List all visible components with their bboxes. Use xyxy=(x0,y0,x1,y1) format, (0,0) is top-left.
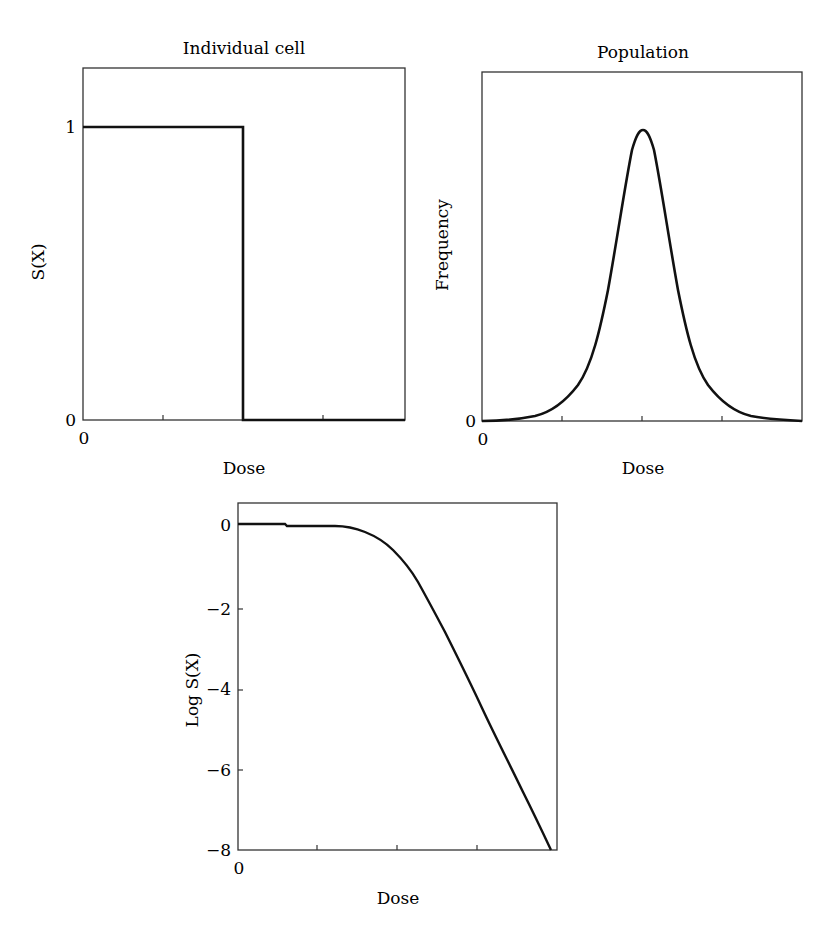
x-axis-label: Dose xyxy=(223,458,266,478)
y-ticks xyxy=(238,609,243,770)
x-tick-origin: 0 xyxy=(79,428,90,448)
panel-title: Individual cell xyxy=(183,38,305,58)
y-axis-label: Log S(X) xyxy=(182,653,202,728)
x-ticks xyxy=(562,416,722,421)
step-function-line xyxy=(83,127,405,420)
x-axis-label: Dose xyxy=(377,888,420,908)
plot-frame xyxy=(482,72,802,421)
x-ticks xyxy=(317,845,477,850)
log-survival-curve xyxy=(238,524,551,850)
y-axis-label: Frequency xyxy=(432,199,452,291)
panel-individual-cell: Individual cell 1 0 0 Dose S(X) xyxy=(28,38,405,478)
x-tick-origin: 0 xyxy=(478,429,489,449)
y-tick-1: 1 xyxy=(65,117,76,137)
y-tick-0: 0 xyxy=(65,410,76,430)
y-tick-minus6: −6 xyxy=(206,760,231,780)
y-axis-label: S(X) xyxy=(28,243,48,280)
y-tick-minus2: −2 xyxy=(206,599,231,619)
y-tick-minus8: −8 xyxy=(206,840,231,860)
y-tick-0: 0 xyxy=(220,515,231,535)
frequency-curve xyxy=(482,130,802,421)
x-tick-origin: 0 xyxy=(234,858,245,878)
figure: Individual cell 1 0 0 Dose S(X) Populati… xyxy=(0,0,832,938)
y-tick-0: 0 xyxy=(465,411,476,431)
x-axis-label: Dose xyxy=(622,458,665,478)
panel-log-survival: 0 −2 −4 −6 −8 0 Dose Log S(X) xyxy=(182,503,557,908)
panel-population: Population 0 0 Dose Frequency xyxy=(432,42,802,478)
panel-title: Population xyxy=(597,42,689,62)
y-tick-minus4: −4 xyxy=(206,679,231,699)
